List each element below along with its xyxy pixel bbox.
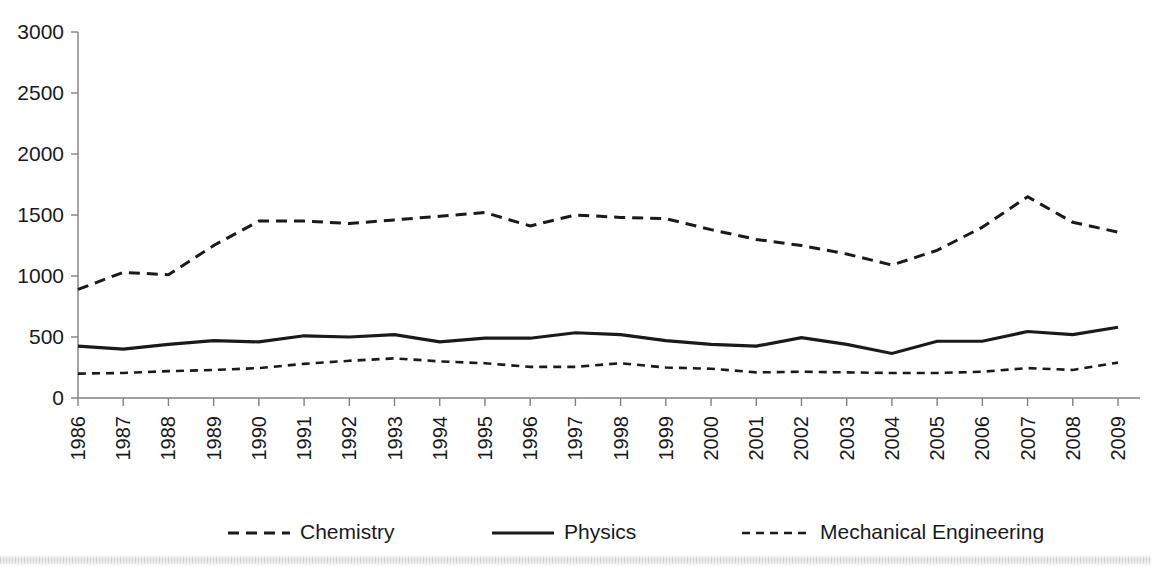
x-tick-label: 1996 — [519, 416, 541, 461]
x-axis: 1986198719881989199019911992199319941995… — [67, 398, 1140, 461]
y-tick-label: 0 — [52, 386, 64, 409]
x-tick-label: 1987 — [112, 416, 134, 461]
series-line-chemistry — [78, 197, 1118, 290]
scan-artifact-strip — [0, 554, 1151, 567]
x-tick-label: 1992 — [338, 416, 360, 461]
x-tick-label: 2000 — [700, 416, 722, 461]
x-tick-label: 1998 — [610, 416, 632, 461]
data-series-group — [78, 197, 1118, 374]
x-tick-label: 1999 — [655, 416, 677, 461]
x-tick-label: 1986 — [67, 416, 89, 461]
legend-label-physics: Physics — [564, 520, 636, 543]
series-line-physics — [78, 327, 1118, 353]
line-chart: 050010001500200025003000 198619871988198… — [0, 0, 1151, 567]
y-axis: 050010001500200025003000 — [17, 20, 78, 409]
y-tick-label: 2000 — [17, 142, 64, 165]
x-tick-label: 2002 — [790, 416, 812, 461]
legend-label-mechanical-engineering: Mechanical Engineering — [820, 520, 1044, 543]
x-tick-label: 2001 — [745, 416, 767, 461]
x-tick-labels: 1986198719881989199019911992199319941995… — [67, 416, 1129, 461]
x-tick-label: 1989 — [203, 416, 225, 461]
x-tick-label: 1993 — [384, 416, 406, 461]
x-tick-label: 2007 — [1017, 416, 1039, 461]
y-tick-label: 1000 — [17, 264, 64, 287]
x-tick-label: 2008 — [1062, 416, 1084, 461]
y-tick-label: 3000 — [17, 20, 64, 43]
x-tick-label: 2009 — [1107, 416, 1129, 461]
chart-canvas: 050010001500200025003000 198619871988198… — [0, 0, 1151, 567]
x-tick-label: 2004 — [881, 416, 903, 461]
legend-label-chemistry: Chemistry — [300, 520, 395, 543]
x-tick-label: 1988 — [157, 416, 179, 461]
y-tick-marks — [71, 32, 78, 398]
y-tick-label: 1500 — [17, 203, 64, 226]
series-line-mechanical-engineering — [78, 358, 1118, 373]
x-tick-label: 1997 — [564, 416, 586, 461]
x-tick-label: 1990 — [248, 416, 270, 461]
x-tick-label: 1991 — [293, 416, 315, 461]
chart-legend: ChemistryPhysicsMechanical Engineering — [228, 520, 1044, 543]
x-tick-label: 2005 — [926, 416, 948, 461]
x-tick-label: 1994 — [429, 416, 451, 461]
y-tick-label: 2500 — [17, 81, 64, 104]
y-tick-label: 500 — [29, 325, 64, 348]
x-tick-label: 1995 — [474, 416, 496, 461]
x-tick-label: 2003 — [836, 416, 858, 461]
y-tick-labels: 050010001500200025003000 — [17, 20, 64, 409]
x-tick-label: 2006 — [971, 416, 993, 461]
x-tick-marks — [78, 398, 1118, 406]
